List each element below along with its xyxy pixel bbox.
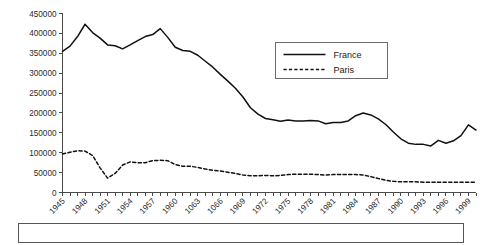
y-tick-label: 100000 (29, 149, 57, 158)
series-line-france (63, 24, 477, 146)
y-axis-tick-marks (59, 14, 63, 193)
x-tick-label: 1984 (341, 196, 361, 216)
y-tick-label: 150000 (29, 129, 57, 138)
x-tick-label: 1981 (318, 196, 338, 216)
x-tick-label: 1954 (115, 196, 135, 216)
y-tick-label: 350000 (29, 49, 57, 58)
x-tick-label: 1972 (251, 196, 271, 216)
legend-label-paris: Paris (334, 65, 355, 75)
chart-legend: FranceParis (276, 43, 388, 79)
y-tick-label: 0 (52, 189, 57, 198)
y-tick-label: 300000 (29, 69, 57, 78)
y-tick-label: 250000 (29, 89, 57, 98)
x-tick-label: 1999 (454, 196, 474, 216)
x-tick-label: 1975 (273, 196, 293, 216)
x-axis-tick-labels: 1945194819511954195719601063106619691972… (48, 196, 474, 216)
y-tick-label: 200000 (29, 109, 57, 118)
y-tick-label: 50000 (34, 169, 57, 178)
x-tick-label: 1978 (296, 196, 316, 216)
caption-box (18, 223, 464, 243)
figure-container: 0500001000001500002000002500003000003500… (0, 0, 485, 245)
x-tick-label: 1945 (48, 196, 68, 216)
x-tick-label: 1960 (160, 196, 180, 216)
y-axis-tick-labels: 0500001000001500002000002500003000003500… (29, 10, 57, 198)
x-tick-label: 1948 (70, 196, 90, 216)
x-tick-label: 1990 (386, 196, 406, 216)
x-tick-label: 1993 (409, 196, 429, 216)
legend-label-france: France (334, 50, 362, 60)
data-series-group (63, 24, 477, 182)
x-tick-label: 1063 (183, 196, 203, 216)
y-tick-label: 400000 (29, 29, 57, 38)
x-tick-label: 1969 (228, 196, 248, 216)
x-tick-label: 1957 (138, 196, 158, 216)
series-line-paris (63, 151, 477, 182)
line-chart: 0500001000001500002000002500003000003500… (0, 0, 485, 218)
x-tick-label: 1066 (206, 196, 226, 216)
legend-background (276, 43, 388, 79)
x-tick-label: 1951 (93, 196, 113, 216)
y-tick-label: 450000 (29, 10, 57, 19)
x-tick-label: 1996 (431, 196, 451, 216)
x-tick-label: 1987 (363, 196, 383, 216)
x-axis-tick-marks (63, 193, 477, 197)
